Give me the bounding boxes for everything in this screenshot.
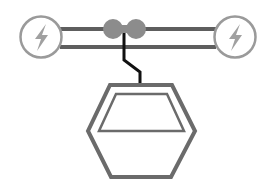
right-station-icon [215,17,256,58]
cabin [88,85,195,177]
cable-car-illustration: cable car [0,0,273,193]
hanger-cable [124,32,140,86]
left-station-icon [21,17,62,58]
